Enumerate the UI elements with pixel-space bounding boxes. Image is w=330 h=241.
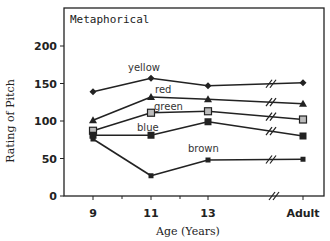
- x-tick-label: 9: [89, 207, 97, 220]
- series-red: [89, 93, 307, 123]
- open-square-marker-icon: [205, 108, 212, 115]
- x-tick-label: 13: [200, 207, 215, 220]
- x-axis-title: Age (Years): [155, 225, 220, 238]
- filled-square-marker-icon: [205, 118, 212, 125]
- diamond-marker-icon: [205, 82, 212, 89]
- y-tick-label: 200: [34, 40, 57, 53]
- series-layer: [89, 75, 307, 179]
- small-square-marker-icon: [301, 157, 306, 162]
- small-square-marker-icon: [91, 137, 96, 142]
- line-chart: Metaphorical 200 150 100 50 0 Rating of …: [0, 0, 330, 241]
- series-label-blue: blue: [137, 122, 159, 133]
- series-label-green: green: [154, 101, 183, 112]
- x-axis: 9 11 13 Adult Age (Years): [89, 192, 319, 238]
- filled-square-marker-icon: [300, 133, 307, 140]
- series-yellow: [90, 75, 307, 96]
- series-label-brown: brown: [188, 143, 219, 154]
- y-tick-label: 0: [49, 190, 57, 203]
- diamond-marker-icon: [148, 75, 155, 82]
- y-tick-label: 50: [42, 153, 58, 166]
- series-label-yellow: yellow: [128, 62, 160, 73]
- open-square-marker-icon: [300, 116, 307, 123]
- small-square-marker-icon: [149, 173, 154, 178]
- y-tick-label: 100: [34, 115, 57, 128]
- y-axis-title: Rating of Pitch: [4, 79, 17, 162]
- series-label-red: red: [155, 84, 171, 95]
- diamond-marker-icon: [300, 79, 307, 86]
- y-axis: 200 150 100 50 0 Rating of Pitch: [4, 40, 64, 203]
- plot-frame: [64, 8, 324, 196]
- diamond-marker-icon: [90, 88, 97, 95]
- y-tick-label: 150: [34, 78, 57, 91]
- chart-title: Metaphorical: [70, 13, 149, 26]
- small-square-marker-icon: [206, 158, 211, 163]
- x-tick-label: 11: [143, 207, 158, 220]
- x-tick-label: Adult: [286, 207, 319, 220]
